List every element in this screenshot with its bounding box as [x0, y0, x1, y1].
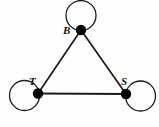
filled-circle-node-icon-t — [33, 88, 43, 98]
graph-edge-t-s — [38, 94, 126, 95]
graph-figure: B T S — [0, 0, 159, 127]
vertex-label-b: B — [63, 25, 70, 36]
filled-circle-node-icon-s — [121, 89, 131, 99]
vertex-label-t: T — [29, 76, 36, 87]
vertex-label-s: S — [121, 76, 127, 87]
graph-canvas — [0, 0, 159, 127]
graph-edge-b-s — [81, 30, 126, 94]
graph-edge-b-t — [38, 30, 81, 94]
filled-circle-node-icon-b — [76, 25, 86, 35]
